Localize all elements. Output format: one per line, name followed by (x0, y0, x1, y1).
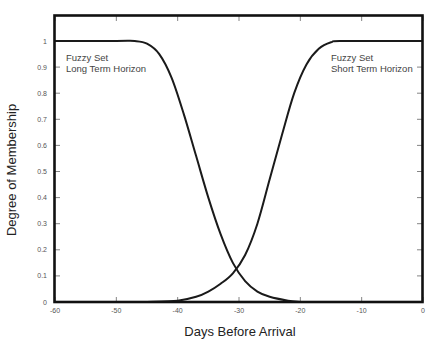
y-tick-label: 0.1 (37, 272, 47, 279)
annotation-long-term-line2: Long Term Horizon (66, 63, 146, 74)
y-axis-ticks: 00.10.20.30.40.50.60.70.80.91 (37, 38, 422, 306)
x-tick-label: -20 (295, 307, 305, 314)
x-tick-label: -40 (173, 307, 183, 314)
x-axis-title: Days Before Arrival (184, 324, 295, 339)
x-tick-label: -10 (357, 307, 367, 314)
annotation-long-term-line1: Fuzzy Set (66, 52, 109, 63)
short-term-horizon-curve (147, 41, 423, 302)
y-tick-label: 0.4 (37, 194, 47, 201)
y-tick-label: 0.3 (37, 220, 47, 227)
y-tick-label: 0.2 (37, 246, 47, 253)
y-tick-label: 1 (43, 38, 47, 45)
series-group (55, 41, 423, 302)
annotation-short-term-line1: Fuzzy Set (331, 52, 374, 63)
y-tick-label: 0.9 (37, 64, 47, 71)
x-tick-label: -50 (111, 307, 121, 314)
y-tick-label: 0.6 (37, 142, 47, 149)
y-tick-label: 0.5 (37, 168, 47, 175)
y-axis-title: Degree of Membership (4, 104, 19, 236)
annotation-short-term-line2: Short Term Horizon (331, 63, 413, 74)
long-term-horizon-curve (55, 41, 300, 302)
y-tick-label: 0 (43, 299, 47, 306)
y-tick-label: 0.7 (37, 116, 47, 123)
y-tick-label: 0.8 (37, 90, 47, 97)
x-tick-label: -60 (50, 307, 60, 314)
x-tick-label: 0 (421, 307, 425, 314)
membership-chart: 00.10.20.30.40.50.60.70.80.91 -60-50-40-… (0, 0, 433, 349)
x-tick-label: -30 (234, 307, 244, 314)
